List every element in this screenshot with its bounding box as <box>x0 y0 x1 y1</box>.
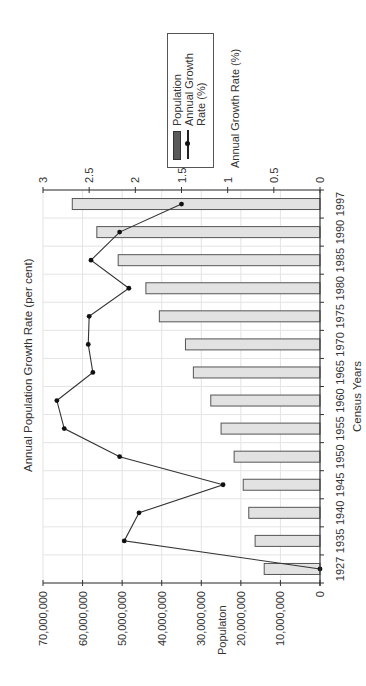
chart-title: Annual Population Growth Rate (per cent) <box>22 258 34 472</box>
point-1980 <box>126 286 131 291</box>
svg-text:1945: 1945 <box>334 473 346 497</box>
bar-1955 <box>221 423 320 434</box>
bar-1940 <box>249 507 320 518</box>
svg-text:1970: 1970 <box>334 332 346 356</box>
gridlines <box>43 190 320 583</box>
point-1970 <box>86 342 91 347</box>
svg-text:1935: 1935 <box>334 529 346 553</box>
y-axis-title: Populaton <box>216 605 228 655</box>
svg-text:1955: 1955 <box>334 416 346 440</box>
svg-text:1965: 1965 <box>334 360 346 384</box>
svg-text:2.5: 2.5 <box>83 168 95 183</box>
point-1985 <box>89 258 94 263</box>
legend-bar-swatch-icon <box>173 131 181 160</box>
legend: Population Annual Growth Rate (%) <box>167 33 214 168</box>
bar-1935 <box>255 535 320 546</box>
point-1990 <box>117 230 122 235</box>
svg-text:1: 1 <box>222 177 234 183</box>
bar-1945 <box>243 479 320 490</box>
svg-text:0: 0 <box>314 177 326 183</box>
bar-1985 <box>118 255 320 266</box>
svg-text:3: 3 <box>37 177 49 183</box>
svg-text:1997: 1997 <box>334 192 346 216</box>
point-1935 <box>122 538 127 543</box>
svg-text:70,000,000: 70,000,000 <box>37 591 49 646</box>
svg-text:0.5: 0.5 <box>268 168 280 183</box>
svg-text:1990: 1990 <box>334 220 346 244</box>
svg-text:10,000,000: 10,000,000 <box>274 591 286 646</box>
svg-text:1980: 1980 <box>334 276 346 300</box>
svg-text:2: 2 <box>129 177 141 183</box>
bar-1950 <box>234 451 320 462</box>
point-1975 <box>87 314 92 319</box>
svg-text:1.5: 1.5 <box>176 168 188 183</box>
bar-1997 <box>72 199 320 210</box>
svg-text:30,000,000: 30,000,000 <box>195 591 207 646</box>
y2-axis-title: Annual Growth Rate (%) <box>229 49 241 168</box>
svg-text:20,000,000: 20,000,000 <box>235 591 247 646</box>
x-axis-title: Census Years <box>351 361 363 432</box>
point-1997 <box>179 202 184 207</box>
legend-line-dot-icon <box>185 141 190 146</box>
svg-text:1927: 1927 <box>334 557 346 581</box>
bar-1960 <box>211 395 320 406</box>
point-1945 <box>221 482 226 487</box>
svg-text:1985: 1985 <box>334 248 346 272</box>
svg-text:1960: 1960 <box>334 388 346 412</box>
bar-1970 <box>185 339 320 350</box>
legend-label-population: Population <box>171 74 183 126</box>
point-1950 <box>117 454 122 459</box>
svg-text:1940: 1940 <box>334 501 346 525</box>
point-1955 <box>62 426 67 431</box>
bar-1965 <box>193 367 320 378</box>
svg-text:1950: 1950 <box>334 444 346 468</box>
svg-text:0: 0 <box>314 591 326 597</box>
svg-text:50,000,000: 50,000,000 <box>116 591 128 646</box>
svg-text:40,000,000: 40,000,000 <box>156 591 168 646</box>
bar-1975 <box>159 311 320 322</box>
legend-label-growth-1: Annual Growth <box>183 53 195 126</box>
point-1960 <box>54 398 59 403</box>
legend-label-growth-2: Rate (%) <box>195 83 207 126</box>
point-1940 <box>137 510 142 515</box>
bar-1980 <box>146 283 320 294</box>
svg-text:1975: 1975 <box>334 304 346 328</box>
point-1965 <box>90 370 95 375</box>
bar-1990 <box>97 227 320 238</box>
svg-text:60,000,000: 60,000,000 <box>77 591 89 646</box>
